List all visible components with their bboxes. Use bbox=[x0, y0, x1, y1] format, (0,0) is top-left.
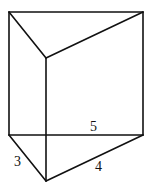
triangular-prism-diagram: 5 3 4 bbox=[0, 0, 153, 188]
bottom-right-edge bbox=[46, 135, 143, 181]
label-right-edge: 4 bbox=[95, 159, 102, 174]
top-right-edge bbox=[46, 12, 143, 58]
label-left-edge: 3 bbox=[14, 154, 21, 169]
label-back-edge: 5 bbox=[90, 119, 97, 134]
top-left-edge bbox=[9, 12, 46, 58]
